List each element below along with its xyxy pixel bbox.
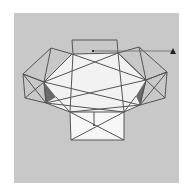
wireframe-diagram xyxy=(0,0,192,196)
front-center-point xyxy=(93,124,95,126)
center-point xyxy=(92,50,94,52)
